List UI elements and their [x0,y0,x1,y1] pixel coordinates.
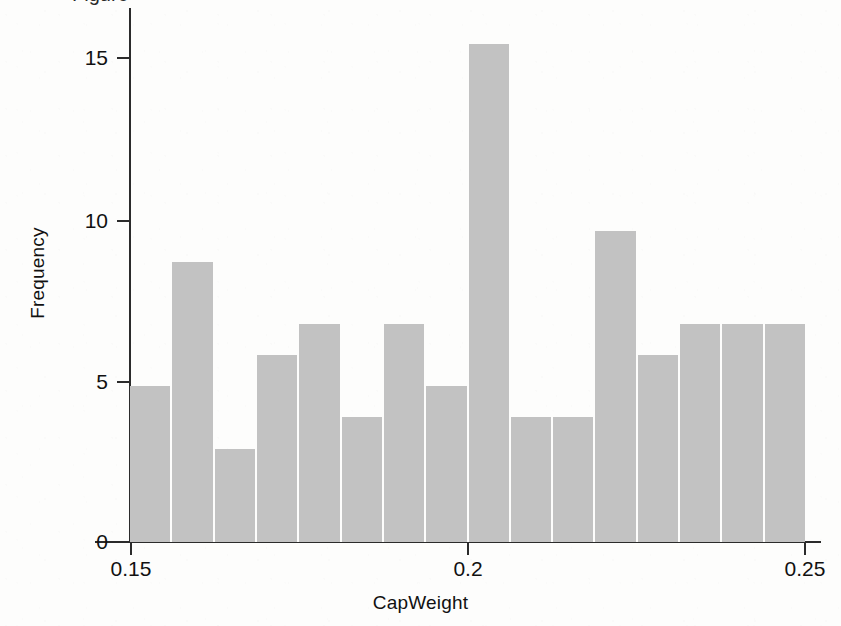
histogram-bar [384,324,426,542]
histogram-bar [342,417,384,542]
y-tick-label-5: 5 [48,371,108,392]
x-tick-0-2 [467,543,469,555]
x-tick-0-15 [130,543,132,555]
x-tick-label-0-15: 0.15 [86,558,176,580]
histogram-bar [638,355,680,542]
x-tick-label-0-2: 0.2 [423,558,513,580]
x-axis-title: CapWeight [0,592,841,614]
x-tick-label-0-25: 0.25 [760,558,841,580]
histogram-bar [426,386,468,542]
cropped-caption-fragment: Figure [0,0,841,10]
y-tick-label-15: 15 [48,47,108,68]
histogram-bar [722,324,764,542]
histogram-figure: Figure 15 10 5 0 0.15 0.2 0.25 Frequency… [0,0,841,626]
histogram-bar [215,449,257,542]
histogram-bar [469,44,511,542]
histogram-bar [595,231,637,542]
y-tick-0 [117,541,130,543]
y-tick-15 [117,57,130,59]
histogram-bar [257,355,299,542]
histogram-bar [511,417,553,542]
plot-area [130,25,805,542]
histogram-bar [680,324,722,542]
y-tick-label-10: 10 [48,210,108,231]
histogram-bar [130,386,172,542]
y-tick-5 [117,381,130,383]
cropped-caption-text: Figure [72,0,129,6]
x-tick-0-25 [804,543,806,555]
histogram-bar [765,324,805,542]
y-axis-title: Frequency [27,173,49,373]
histogram-bar [172,262,214,542]
y-tick-label-0: 0 [48,531,108,552]
y-tick-10 [117,220,130,222]
histogram-bars [130,25,805,542]
histogram-bar [299,324,341,542]
histogram-bar [553,417,595,542]
